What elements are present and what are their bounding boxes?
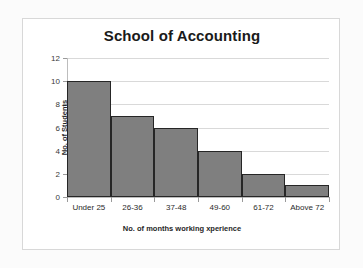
bar[interactable] bbox=[67, 81, 111, 197]
bar-cell bbox=[67, 58, 111, 197]
y-axis-tick bbox=[63, 174, 67, 175]
x-axis-tick bbox=[67, 197, 68, 202]
y-axis-tick-label: 4 bbox=[56, 146, 60, 155]
x-axis-ticks bbox=[67, 197, 329, 202]
bar-cell bbox=[285, 58, 329, 197]
chart-title: School of Accounting bbox=[23, 27, 341, 44]
x-axis-tick-label: 37-48 bbox=[154, 203, 198, 212]
bar-cell bbox=[242, 58, 286, 197]
y-axis-tick bbox=[63, 81, 67, 82]
y-axis-tick-label: 10 bbox=[51, 77, 60, 86]
x-axis-tick-label: 26-36 bbox=[111, 203, 155, 212]
x-axis-tick bbox=[242, 197, 243, 202]
x-axis-tick-label: 49-60 bbox=[198, 203, 242, 212]
y-axis-tick-label: 0 bbox=[56, 193, 60, 202]
x-axis-tick bbox=[154, 197, 155, 202]
bar-series bbox=[67, 58, 329, 197]
bar-cell bbox=[154, 58, 198, 197]
bar-cell bbox=[111, 58, 155, 197]
x-axis-tick-labels: Under 2526-3637-4849-6061-72Above 72 bbox=[67, 203, 329, 212]
x-axis-tick-label: Under 25 bbox=[67, 203, 111, 212]
x-axis-tick bbox=[285, 197, 286, 202]
x-axis-tick-label: 61-72 bbox=[242, 203, 286, 212]
y-axis-tick-label: 2 bbox=[56, 169, 60, 178]
bar[interactable] bbox=[285, 185, 329, 197]
bar[interactable] bbox=[242, 174, 286, 197]
bar-cell bbox=[198, 58, 242, 197]
x-axis-tick-label: Above 72 bbox=[285, 203, 329, 212]
y-axis-tick-label: 6 bbox=[56, 123, 60, 132]
bar[interactable] bbox=[111, 116, 155, 197]
plot-area: 024681012 bbox=[67, 58, 329, 197]
y-axis-tick bbox=[63, 58, 67, 59]
y-axis-tick bbox=[63, 151, 67, 152]
y-axis-tick bbox=[63, 128, 67, 129]
x-axis-tick bbox=[111, 197, 112, 202]
y-axis-tick-label: 12 bbox=[51, 54, 60, 63]
x-axis-tick bbox=[198, 197, 199, 202]
x-axis-tick bbox=[329, 197, 330, 202]
bar[interactable] bbox=[198, 151, 242, 197]
y-axis-tick-label: 8 bbox=[56, 100, 60, 109]
y-axis-tick bbox=[63, 104, 67, 105]
x-axis-title: No. of months working xperience bbox=[23, 224, 341, 233]
bar[interactable] bbox=[154, 128, 198, 198]
chart-frame: School of Accounting No. of Students 024… bbox=[22, 18, 340, 250]
